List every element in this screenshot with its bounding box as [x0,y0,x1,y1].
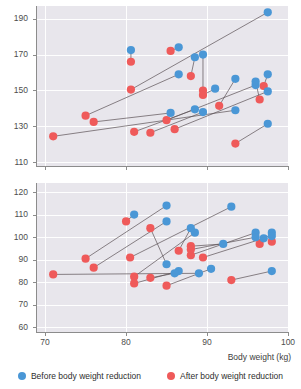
data-point-after[interactable] [81,255,89,263]
data-point-after[interactable] [187,245,195,253]
legend-item-before[interactable]: Before body weight reduction [18,372,141,381]
data-point-after[interactable] [175,247,183,255]
scatter-panel-bottom: 60708090100110120708090100 [0,0,301,389]
data-point-before[interactable] [219,240,227,248]
data-point-before[interactable] [207,265,215,273]
data-point-after[interactable] [146,274,154,282]
chart-figure: 110130150170190 607080901001101207080901… [0,0,301,389]
legend-swatch-after-icon [167,372,175,380]
data-point-before[interactable] [187,224,195,232]
pair-connector [86,206,167,259]
data-point-after[interactable] [130,279,138,287]
data-layer [0,0,301,389]
data-point-after[interactable] [199,253,207,261]
data-point-after[interactable] [122,217,130,225]
data-point-before[interactable] [162,201,170,209]
legend-item-after[interactable]: After body weight reduction [167,372,283,381]
legend-label-after: After body weight reduction [180,372,283,381]
legend-swatch-before-icon [18,372,26,380]
x-axis-title: Body weight (kg) [228,352,291,362]
data-point-before[interactable] [227,203,235,211]
data-point-before[interactable] [162,260,170,268]
data-point-after[interactable] [126,253,134,261]
data-point-after[interactable] [162,282,170,290]
data-point-before[interactable] [268,232,276,240]
data-point-before[interactable] [268,267,276,275]
data-point-after[interactable] [227,276,235,284]
pair-connector [134,233,195,277]
legend-label-before: Before body weight reduction [31,372,141,381]
data-point-after[interactable] [49,270,57,278]
data-point-before[interactable] [162,217,170,225]
data-point-before[interactable] [130,211,138,219]
data-point-before[interactable] [252,233,260,241]
data-point-before[interactable] [260,234,268,242]
data-point-after[interactable] [146,224,154,232]
data-point-before[interactable] [195,269,203,277]
chart-legend: Before body weight reduction After body … [0,366,301,386]
data-point-before[interactable] [171,269,179,277]
data-point-after[interactable] [90,264,98,272]
pair-connector [231,271,271,280]
